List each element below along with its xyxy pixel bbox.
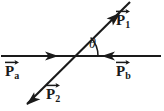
pb-letter: P [116,63,125,79]
pb-vector-arrow-icon [116,59,130,65]
p1-subscript: 1 [125,19,130,30]
p2-subscript: 2 [55,93,60,104]
p1-letter: P [116,12,125,28]
pb-vector-symbol: P b [116,64,131,79]
label-p2: P 2 [46,86,60,102]
pa-base: P [5,64,14,79]
pb-subscript: b [125,70,131,81]
vector-diagram: P 1 P 2 P a [0,0,164,111]
pa-vector-arrow-icon [5,59,19,65]
theta-symbol: θ [89,36,96,51]
p1-vector-arrow-icon [116,8,130,14]
pb-base: P [116,64,125,79]
pa-subscript: a [14,70,19,81]
p1-vector-symbol: P 1 [116,13,130,28]
p2-letter: P [46,86,55,102]
pa-letter: P [5,63,14,79]
label-theta: θ [89,35,96,51]
p2-vector-symbol: P 2 [46,87,60,102]
pa-vector-symbol: P a [5,64,19,79]
vector-diagram-canvas [0,0,164,111]
p2-base: P [46,87,55,102]
label-p1: P 1 [116,12,130,28]
label-pb: P b [116,63,131,79]
p2-vector-arrow-icon [46,82,60,88]
label-pa: P a [5,63,19,79]
p1-base: P [116,13,125,28]
